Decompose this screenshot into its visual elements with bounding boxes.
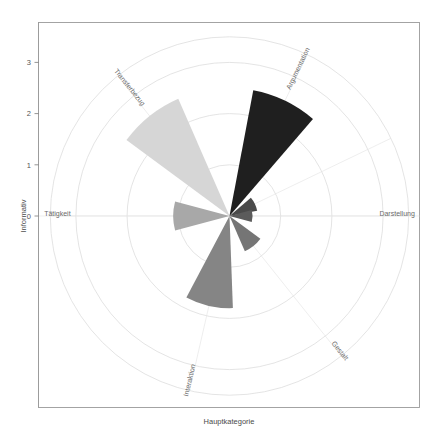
y-tick-label-1: 1 (27, 161, 31, 170)
polar-chart-figure: 0123 Informativ Hauptkategorie Argumenta… (0, 0, 437, 438)
category-label-ttigkeit: Tätigkeit (44, 210, 71, 218)
category-label-darstellung: Darstellung (379, 210, 415, 218)
y-tick-label-3: 3 (27, 58, 31, 67)
figure-background (0, 0, 437, 438)
y-axis-title: Informativ (19, 199, 28, 232)
polar-rose-chart: 0123 Informativ Hauptkategorie Argumenta… (0, 0, 437, 438)
x-axis-title: Hauptkategorie (204, 417, 255, 426)
y-tick-label-2: 2 (27, 109, 31, 118)
